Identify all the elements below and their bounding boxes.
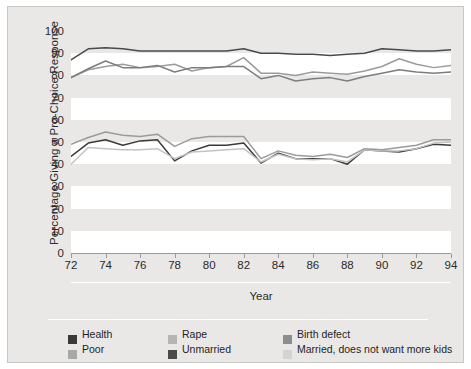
x-tick-label: 84 xyxy=(261,259,295,271)
y-tick-label: 90 xyxy=(18,47,64,59)
x-tick-label: 94 xyxy=(434,259,468,271)
legend-label: Rape xyxy=(182,329,207,340)
x-tick-mark xyxy=(140,254,141,258)
legend-item[interactable]: Rape xyxy=(168,329,207,342)
x-tick-label: 80 xyxy=(192,259,226,271)
x-tick-mark xyxy=(209,254,210,258)
y-tick-label: 60 xyxy=(18,114,64,126)
plot-area xyxy=(71,31,451,253)
legend-item[interactable]: Poor xyxy=(68,344,104,357)
legend-item[interactable]: Health xyxy=(68,329,112,342)
x-tick-mark xyxy=(347,254,348,258)
x-axis-underline xyxy=(71,282,451,283)
series-line xyxy=(71,142,451,164)
legend-swatch-icon xyxy=(283,350,292,359)
legend-row: PoorUnmarriedMarried, does not want more… xyxy=(68,344,428,357)
series-line xyxy=(71,140,451,164)
chart-figure: Percentage Giving a Pro-Choice Response … xyxy=(7,6,464,363)
y-tick-label: 10 xyxy=(18,225,64,237)
y-tick-label: 0 xyxy=(18,247,64,259)
x-tick-mark xyxy=(244,254,245,258)
y-tick-label: 40 xyxy=(18,158,64,170)
x-tick-mark xyxy=(175,254,176,258)
legend-item[interactable]: Birth defect xyxy=(283,329,350,342)
legend-divider xyxy=(48,319,428,320)
legend-swatch-icon xyxy=(283,335,292,344)
legend-label: Married, does not want more kids xyxy=(297,344,452,355)
y-tick-label: 70 xyxy=(18,92,64,104)
x-tick-label: 78 xyxy=(158,259,192,271)
x-tick-mark xyxy=(106,254,107,258)
x-tick-mark xyxy=(278,254,279,258)
y-tick-label: 20 xyxy=(18,203,64,215)
chart-legend: HealthRapeBirth defectPoorUnmarriedMarri… xyxy=(68,329,428,359)
x-tick-mark xyxy=(416,254,417,258)
x-tick-label: 82 xyxy=(227,259,261,271)
x-axis-tick-labels: 727476788082848688909294 xyxy=(71,254,451,276)
legend-label: Poor xyxy=(82,344,104,355)
x-tick-label: 86 xyxy=(296,259,330,271)
series-line xyxy=(71,61,451,81)
y-axis-tick-labels: 0102030405060708090100 xyxy=(16,31,64,253)
legend-label: Birth defect xyxy=(297,329,350,340)
x-tick-mark xyxy=(451,254,452,258)
y-tick-label: 100 xyxy=(18,25,64,37)
series-line xyxy=(71,48,451,60)
y-tick-label: 30 xyxy=(18,180,64,192)
legend-label: Unmarried xyxy=(182,344,231,355)
x-tick-label: 90 xyxy=(365,259,399,271)
legend-swatch-icon xyxy=(168,335,177,344)
x-tick-label: 92 xyxy=(399,259,433,271)
legend-swatch-icon xyxy=(68,350,77,359)
x-tick-mark xyxy=(71,254,72,258)
x-tick-label: 72 xyxy=(54,259,88,271)
x-tick-label: 74 xyxy=(89,259,123,271)
series-line xyxy=(71,132,451,159)
legend-swatch-icon xyxy=(168,350,177,359)
x-axis-title: Year xyxy=(71,290,451,302)
legend-item[interactable]: Unmarried xyxy=(168,344,231,357)
x-tick-label: 88 xyxy=(330,259,364,271)
legend-label: Health xyxy=(82,329,112,340)
legend-item[interactable]: Married, does not want more kids xyxy=(283,344,452,357)
series-lines xyxy=(71,31,451,253)
x-tick-mark xyxy=(313,254,314,258)
legend-swatch-icon xyxy=(68,335,77,344)
y-tick-label: 50 xyxy=(18,136,64,148)
x-tick-mark xyxy=(382,254,383,258)
legend-row: HealthRapeBirth defect xyxy=(68,329,428,342)
y-tick-label: 80 xyxy=(18,69,64,81)
x-tick-label: 76 xyxy=(123,259,157,271)
